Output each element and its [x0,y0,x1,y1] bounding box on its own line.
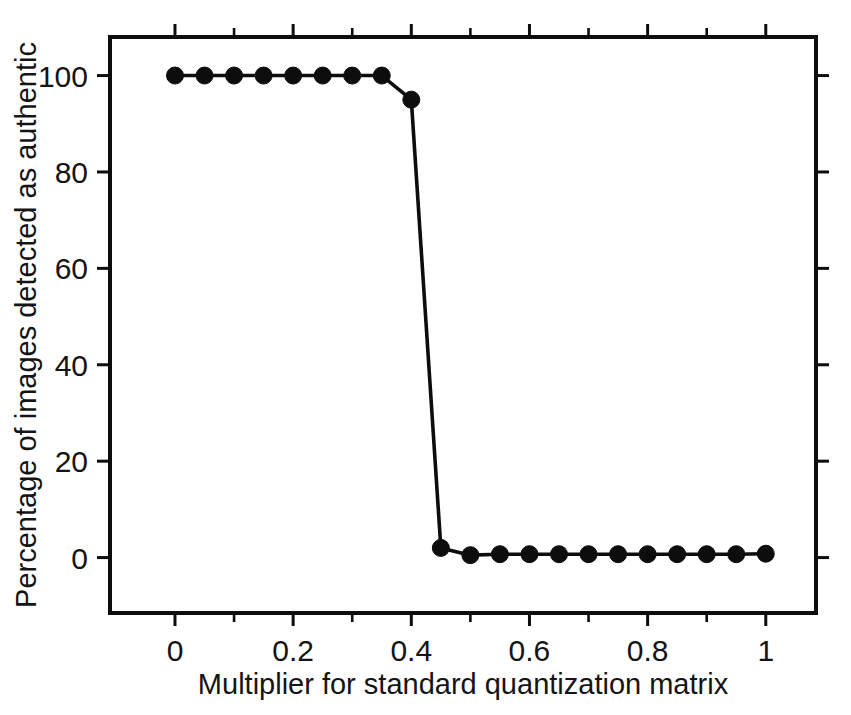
data-point-marker [669,546,686,563]
x-tick-label: 0.4 [390,634,432,667]
x-tick-label: 1 [757,634,774,667]
data-point-marker [728,546,745,563]
data-point-marker [403,91,420,108]
data-point-marker [166,67,183,84]
x-tick-labels: 00.20.40.60.81 [167,634,774,667]
line-chart: 00.20.40.60.81 020406080100 Multiplier f… [0,0,851,715]
x-tick-label: 0 [167,634,184,667]
axis-ticks [97,24,829,626]
data-series [166,67,774,564]
y-tick-label: 100 [38,60,88,93]
data-point-marker [757,545,774,562]
data-point-marker [255,67,272,84]
series-line [175,76,766,556]
data-point-marker [610,546,627,563]
plot-frame [110,37,816,613]
y-tick-label: 60 [55,252,88,285]
data-point-marker [314,67,331,84]
y-tick-label: 20 [55,445,88,478]
data-point-marker [285,67,302,84]
data-point-marker [196,67,213,84]
y-tick-label: 80 [55,156,88,189]
data-point-marker [373,67,390,84]
data-point-marker [432,539,449,556]
x-tick-label: 0.8 [627,634,669,667]
x-tick-label: 0.2 [272,634,314,667]
y-tick-label: 40 [55,349,88,382]
data-point-marker [580,546,597,563]
y-axis-title: Percentage of images detected as authent… [10,42,42,608]
data-point-marker [462,547,479,564]
data-point-marker [551,546,568,563]
x-tick-label: 0.6 [509,634,551,667]
data-point-marker [491,546,508,563]
chart-figure: 00.20.40.60.81 020406080100 Multiplier f… [0,0,851,715]
data-point-marker [639,546,656,563]
data-point-marker [226,67,243,84]
data-point-marker [344,67,361,84]
x-axis-title: Multiplier for standard quantization mat… [198,668,729,700]
y-tick-label: 0 [71,542,88,575]
data-point-marker [521,546,538,563]
data-point-marker [698,546,715,563]
y-tick-labels: 020406080100 [38,60,88,575]
